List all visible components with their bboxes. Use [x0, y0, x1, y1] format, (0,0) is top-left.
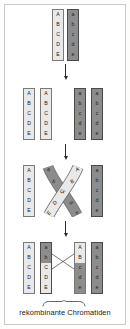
segment: A: [24, 89, 34, 99]
segment: A: [75, 243, 85, 253]
segment: a: [68, 10, 78, 20]
segment: c: [92, 263, 102, 273]
chromatid-s2-c1: A B C D E: [23, 88, 35, 140]
segment: A: [24, 166, 34, 176]
segment: a: [75, 89, 85, 99]
segment: c: [68, 30, 78, 40]
chromatid-s1-c1: A B C D E: [52, 9, 64, 61]
chromatid-s4-c2: a b C D E: [40, 242, 52, 294]
segment: a: [92, 243, 102, 253]
segment: a: [92, 89, 102, 99]
segment: E: [24, 283, 34, 293]
arrow-shaft: [65, 64, 66, 76]
segment: d: [92, 273, 102, 283]
segment: e: [75, 283, 85, 293]
segment: E: [53, 50, 63, 60]
segment: D: [24, 119, 34, 129]
segment: C: [41, 263, 51, 273]
segment: b: [75, 99, 85, 109]
segment: a: [92, 166, 102, 176]
segment: b: [41, 253, 51, 263]
segment: A: [53, 10, 63, 20]
chromatid-s4-c4: a b c d e: [91, 242, 103, 294]
exchange-crossing-lines: [52, 253, 74, 270]
segment: D: [24, 273, 34, 283]
chromatid-s3-c4: a b c d e: [91, 165, 103, 217]
segment: d: [92, 119, 102, 129]
segment: e: [75, 129, 85, 139]
segment: B: [53, 20, 63, 30]
arrow-3-down-icon: [61, 221, 70, 237]
segment: B: [41, 99, 51, 109]
segment: a: [41, 243, 51, 253]
arrow-head: [64, 233, 68, 237]
chromatid-s4-c1: A B C D E: [23, 242, 35, 294]
segment: d: [75, 273, 85, 283]
segment: d: [68, 40, 78, 50]
segment: B: [24, 99, 34, 109]
arrow-shaft: [65, 144, 66, 156]
arrow-head: [64, 156, 68, 160]
segment: c: [75, 109, 85, 119]
segment: C: [24, 109, 34, 119]
arrow-shaft: [65, 221, 66, 233]
recombinant-brace: [42, 300, 86, 307]
arrow-head: [64, 76, 68, 80]
chromatid-s2-c2: A B C D E: [40, 88, 52, 140]
segment: C: [24, 186, 34, 196]
arrow-1-down-icon: [61, 64, 70, 80]
segment: b: [68, 20, 78, 30]
segment: d: [92, 196, 102, 206]
figure-caption: rekombinante Chromatiden: [0, 309, 130, 316]
segment: c: [92, 109, 102, 119]
segment: E: [24, 206, 34, 216]
segment: E: [24, 129, 34, 139]
segment: d: [75, 119, 85, 129]
segment: b: [92, 176, 102, 186]
segment: e: [68, 50, 78, 60]
segment: b: [92, 99, 102, 109]
segment: D: [53, 40, 63, 50]
segment: e: [92, 283, 102, 293]
segment: B: [24, 176, 34, 186]
chromatid-s2-c3: a b c d e: [74, 88, 86, 140]
crossing-over-x-shape: a b c d e A B C D E: [39, 165, 87, 217]
segment: B: [24, 253, 34, 263]
segment: D: [41, 273, 51, 283]
segment: B: [75, 253, 85, 263]
chromatid-s4-c3: A B c d e: [74, 242, 86, 294]
chromatid-s2-c4: a b c d e: [91, 88, 103, 140]
arrow-2-down-icon: [61, 144, 70, 160]
segment: e: [92, 129, 102, 139]
chromatid-s3-c1: A B C D E: [23, 165, 35, 217]
segment: E: [41, 129, 51, 139]
segment: b: [92, 253, 102, 263]
chromatid-s1-c2: a b c d e: [67, 9, 79, 61]
segment: A: [41, 89, 51, 99]
segment: A: [24, 243, 34, 253]
segment: D: [24, 196, 34, 206]
segment: C: [41, 109, 51, 119]
segment: E: [41, 283, 51, 293]
segment: e: [92, 206, 102, 216]
segment: D: [41, 119, 51, 129]
segment: C: [53, 30, 63, 40]
crossing-over-figure: A B C D E a b c d e A B C D E A B C: [0, 0, 130, 329]
segment: C: [24, 263, 34, 273]
segment: c: [92, 186, 102, 196]
segment: c: [75, 263, 85, 273]
